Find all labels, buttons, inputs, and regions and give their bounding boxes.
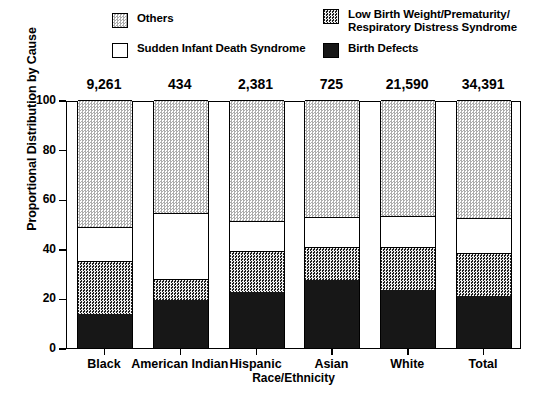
bar-segment-others: [305, 100, 359, 217]
y-tick-mark: [59, 100, 66, 101]
y-tick-label: 0: [49, 341, 56, 355]
bar-segment-lbw: [154, 279, 208, 300]
bar-segment-others: [230, 100, 284, 221]
bar-segment-sids: [154, 213, 208, 279]
legend-label-sids: Sudden Infant Death Syndrome: [137, 42, 305, 55]
legend-item-birth-defects: Birth Defects: [323, 42, 517, 58]
legend-label-birth-defects: Birth Defects: [348, 42, 418, 55]
y-tick-mark: [59, 200, 66, 201]
bar-segment-sids: [78, 227, 132, 261]
stacked-bar: [229, 102, 285, 348]
x-tick-mark: [256, 349, 257, 355]
x-tick-label: Hispanic: [230, 357, 282, 371]
light-stipple-swatch-icon: [112, 13, 128, 28]
bar-total-label: 434: [168, 76, 191, 92]
x-tick-mark: [331, 349, 332, 355]
stacked-bar: [77, 102, 133, 348]
x-tick-mark: [483, 349, 484, 355]
y-tick-mark: [59, 249, 66, 250]
legend-label-lbw: Low Birth Weight/Prematurity/ Respirator…: [348, 8, 517, 33]
x-tick-mark: [180, 349, 181, 355]
bar-segment-others: [457, 100, 511, 218]
x-tick-label: White: [390, 357, 424, 371]
y-tick-label: 60: [43, 192, 56, 206]
bar-segment-bd: [457, 296, 511, 348]
y-tick-mark: [59, 150, 66, 151]
y-tick-label: 20: [43, 291, 56, 305]
dark-stipple-swatch-icon: [323, 9, 339, 24]
legend-column-right: Low Birth Weight/Prematurity/ Respirator…: [323, 8, 517, 67]
bar-segment-bd: [78, 314, 132, 348]
legend-label-others: Others: [137, 12, 173, 25]
bar-segment-bd: [305, 280, 359, 348]
x-tick-label: Black: [87, 357, 120, 371]
bar-total-label: 34,391: [462, 76, 505, 92]
bar-total-label: 9,261: [86, 76, 121, 92]
bar-segment-others: [78, 100, 132, 227]
x-tick-mark: [104, 349, 105, 355]
bar-total-label: 725: [320, 76, 343, 92]
stacked-bar: [380, 102, 436, 348]
y-tick-mark: [59, 348, 66, 349]
x-tick-label: American Indian: [131, 357, 228, 371]
stacked-bar-chart: Others Sudden Infant Death Syndrome Low …: [0, 0, 537, 406]
bar-segment-sids: [230, 221, 284, 251]
bar-total-label: 21,590: [386, 76, 429, 92]
stacked-bar: [304, 102, 360, 348]
legend-item-others: Others: [112, 12, 305, 28]
y-tick-mark: [59, 299, 66, 300]
legend-item-lbw: Low Birth Weight/Prematurity/ Respirator…: [323, 8, 517, 33]
bar-segment-sids: [457, 218, 511, 253]
y-axis-title: Proportional Distribution by Cause: [25, 5, 39, 253]
plot-area: [66, 101, 521, 349]
bar-segment-sids: [381, 216, 435, 247]
black-swatch-icon: [323, 43, 339, 58]
bar-segment-others: [381, 100, 435, 216]
x-tick-label: Asian: [314, 357, 348, 371]
white-swatch-icon: [112, 43, 128, 58]
bar-segment-sids: [305, 217, 359, 247]
x-axis-title: Race/Ethnicity: [66, 371, 521, 385]
chart-legend: Others Sudden Infant Death Syndrome Low …: [0, 0, 537, 78]
bar-segment-lbw: [305, 247, 359, 280]
y-tick-label: 80: [43, 143, 56, 157]
stacked-bar: [456, 102, 512, 348]
stacked-bar: [153, 102, 209, 348]
y-tick-label: 40: [43, 242, 56, 256]
bar-segment-others: [154, 100, 208, 213]
legend-item-sids: Sudden Infant Death Syndrome: [112, 42, 305, 58]
bar-segment-bd: [154, 300, 208, 348]
bar-segment-bd: [381, 290, 435, 348]
bars-layer: [67, 102, 520, 348]
x-tick-label: Total: [469, 357, 498, 371]
bar-total-labels: 9,2614342,38172521,59034,391: [66, 76, 521, 96]
bar-segment-lbw: [230, 251, 284, 292]
legend-column-left: Others Sudden Infant Death Syndrome: [112, 12, 305, 67]
x-tick-mark: [407, 349, 408, 355]
bar-segment-lbw: [78, 261, 132, 314]
bar-segment-bd: [230, 292, 284, 348]
bar-total-label: 2,381: [238, 76, 273, 92]
bar-segment-lbw: [381, 247, 435, 290]
bar-segment-lbw: [457, 253, 511, 296]
